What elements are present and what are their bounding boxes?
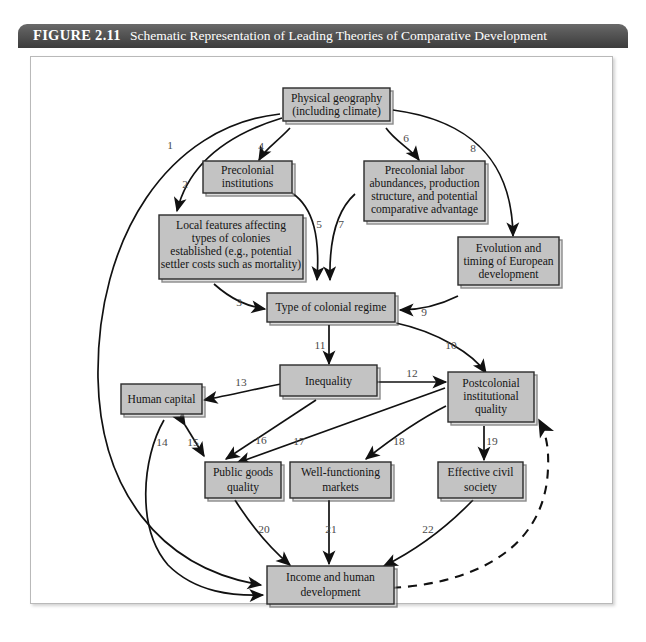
edge-18-path (366, 406, 446, 459)
node-label-local-line3: established (e.g., potential (170, 245, 291, 258)
node-label-regime: Type of colonial regime (276, 301, 387, 314)
edge-label-6: 6 (403, 132, 409, 144)
edge-label-21: 21 (325, 523, 337, 535)
edge-10-path (396, 323, 486, 373)
edge-label-18: 18 (393, 435, 405, 447)
edge-label-9: 9 (421, 306, 427, 318)
edge-label-10: 10 (445, 339, 457, 351)
edge-label-19: 19 (486, 435, 498, 447)
edge-7-path (330, 194, 355, 280)
figure-header-bar: FIGURE 2.11Schematic Representation of L… (18, 24, 628, 48)
edge-label-12: 12 (406, 367, 418, 379)
node-label-euro-line3: development (479, 268, 540, 281)
edge-label-3: 3 (236, 296, 242, 308)
node-precolonial-institutions[interactable]: Precolonial institutions (203, 161, 295, 196)
node-local-features[interactable]: Local features affecting types of coloni… (159, 215, 306, 282)
edge-label-4: 4 (258, 140, 264, 152)
node-label-civil-line2: society (464, 481, 497, 494)
figure-title: Schematic Representation of Leading Theo… (121, 28, 547, 43)
edge-label-7: 7 (338, 218, 344, 230)
node-label-income-line1: Income and human (286, 571, 375, 584)
edge-label-2: 2 (182, 178, 188, 190)
node-label-geo-line2: (including climate) (292, 105, 381, 118)
node-precolonial-labor[interactable]: Precolonial labor abundances, production… (364, 161, 488, 224)
node-label-civil-line1: Effective civil (448, 466, 514, 479)
node-label-geo-line1: Physical geography (291, 92, 382, 105)
node-postcolonial-institutional-quality[interactable]: Postcolonial institutional quality (448, 372, 537, 425)
node-label-markets-line1: Well-functioning (301, 466, 380, 479)
node-label-public-line1: Public goods (213, 466, 274, 479)
edge-label-22: 22 (422, 523, 434, 535)
node-inequality[interactable]: Inequality (280, 365, 380, 399)
node-evolution-europe[interactable]: Evolution and timing of European develop… (458, 237, 562, 288)
node-label-euro-line2: timing of European (463, 255, 553, 268)
edge-label-8: 8 (470, 142, 476, 154)
edge-label-14: 14 (156, 436, 168, 448)
node-label-postcol-line1: Postcolonial (462, 377, 519, 390)
node-public-goods-quality[interactable]: Public goods quality (205, 462, 284, 501)
figure-container: FIGURE 2.11Schematic Representation of L… (0, 0, 646, 642)
node-label-postcol-line2: institutional (463, 390, 518, 403)
node-label-precol-lab-line1: Precolonial labor (385, 164, 465, 177)
node-label-public-line2: quality (227, 481, 259, 494)
edge-9-path (400, 296, 458, 310)
node-label-precol-lab-line3: structure, and potential (371, 190, 478, 203)
node-effective-civil-society[interactable]: Effective civil society (438, 462, 526, 501)
node-label-human-capital: Human capital (128, 393, 196, 406)
edge-label-5: 5 (316, 218, 322, 230)
node-label-inequality: Inequality (305, 375, 352, 388)
node-label-postcol-line3: quality (475, 403, 507, 416)
node-label-local-line2: types of colonies (192, 232, 271, 245)
edge-label-1: 1 (167, 139, 173, 151)
node-label-euro-line1: Evolution and (476, 242, 542, 255)
edge-label-16: 16 (255, 434, 267, 446)
node-human-capital[interactable]: Human capital (121, 384, 205, 417)
node-well-functioning-markets[interactable]: Well-functioning markets (290, 462, 394, 501)
edge-label-20: 20 (258, 523, 270, 535)
figure-header-text: FIGURE 2.11Schematic Representation of L… (33, 26, 547, 44)
node-label-precol-lab-line4: comparative advantage (371, 203, 478, 216)
node-colonial-regime[interactable]: Type of colonial regime (267, 293, 398, 325)
figure-card: FIGURE 2.11Schematic Representation of L… (18, 24, 628, 620)
edge-label-11: 11 (315, 339, 326, 351)
node-label-income-line2: development (301, 586, 362, 599)
node-label-markets-line2: markets (322, 481, 359, 494)
figure-number: FIGURE 2.11 (33, 27, 121, 43)
node-label-precol-lab-line2: abundances, production (369, 177, 479, 190)
node-label-local-line4: settler costs such as mortality) (161, 258, 302, 271)
edge-label-13: 13 (235, 376, 247, 388)
edge-label-17: 17 (293, 435, 305, 447)
node-physical-geography[interactable]: Physical geography (including climate) (283, 88, 393, 124)
edge-label-15: 15 (187, 436, 199, 448)
node-label-precol-inst-line2: institutions (222, 177, 274, 190)
node-label-precol-inst-line1: Precolonial (221, 164, 274, 177)
node-label-local-line1: Local features affecting (176, 219, 286, 232)
node-income-human-development[interactable]: Income and human development (267, 566, 397, 607)
figure-body: 1 2 3 4 5 6 7 8 9 10 11 12 13 14 15 16 1 (18, 48, 628, 620)
comparative-development-flowchart: 1 2 3 4 5 6 7 8 9 10 11 12 13 14 15 16 1 (18, 48, 628, 620)
